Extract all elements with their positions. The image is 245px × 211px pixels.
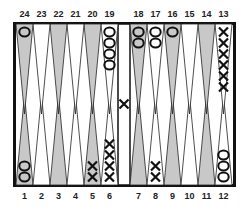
backgammon-board bbox=[0, 0, 245, 211]
